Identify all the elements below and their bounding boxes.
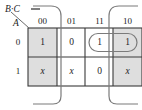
cell-r1-c11: 0: [85, 67, 114, 77]
karnaugh-map-diagram: B·C A 00 01 11 10 0 1 1 0 1 1 x x 0 x: [0, 0, 142, 110]
cell-r0-c11: 1: [85, 38, 114, 48]
column-variable-label: B·C: [5, 5, 20, 15]
cell-r0-c10: 1: [113, 38, 142, 48]
column-header-10: 10: [113, 17, 142, 26]
cell-r0-c01: 0: [57, 38, 86, 48]
row-header-1: 1: [12, 67, 24, 76]
cell-r0-c00: 1: [28, 38, 57, 48]
row-variable-label: A: [13, 19, 19, 29]
cell-r1-c10: x: [113, 67, 142, 77]
cell-r1-c01: x: [57, 67, 86, 77]
column-header-01: 01: [57, 17, 86, 26]
column-header-11: 11: [85, 17, 114, 26]
row-header-0: 0: [12, 38, 24, 47]
column-header-00: 00: [28, 17, 57, 26]
cell-r1-c00: x: [28, 67, 57, 77]
